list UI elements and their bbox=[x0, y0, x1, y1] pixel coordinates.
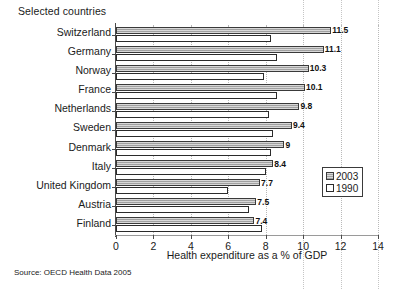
bar-row: Sweden9.4 bbox=[116, 120, 378, 139]
bar-value-label: 11.1 bbox=[325, 44, 341, 54]
legend-label: 2003 bbox=[336, 171, 358, 182]
bar-value-label: 7.5 bbox=[257, 197, 269, 207]
legend-item-2003: 2003 bbox=[326, 170, 358, 182]
category-label-switzerland: Switzerland bbox=[57, 26, 111, 38]
x-axis-tick-4 bbox=[191, 235, 192, 239]
category-label-italy: Italy bbox=[92, 160, 111, 172]
bar-2003-germany: 11.1 bbox=[116, 46, 324, 53]
bar-2003-norway: 10.3 bbox=[116, 65, 309, 72]
x-axis-tick-8 bbox=[266, 235, 267, 239]
gridline-extension-top-12 bbox=[341, 0, 342, 25]
bar-1990-italy bbox=[116, 168, 266, 175]
bar-1990-denmark bbox=[116, 149, 271, 156]
bar-1990-switzerland bbox=[116, 35, 271, 42]
bar-row: Denmark9 bbox=[116, 140, 378, 159]
bar-2003-austria: 7.5 bbox=[116, 198, 256, 205]
empty-white-square-icon bbox=[326, 184, 334, 192]
category-label-norway: Norway bbox=[75, 64, 111, 76]
x-axis-title: Health expenditure as a % of GDP bbox=[116, 249, 378, 261]
category-label-finland: Finland bbox=[77, 217, 111, 229]
bar-row: Austria7.5 bbox=[116, 197, 378, 216]
bar-value-label: 9 bbox=[285, 140, 290, 150]
category-label-austria: Austria bbox=[78, 198, 111, 210]
x-axis-tick-0 bbox=[116, 235, 117, 239]
bar-2003-finland: 7.4 bbox=[116, 217, 254, 224]
source-note: Source: OECD Health Data 2005 bbox=[14, 268, 131, 277]
bar-value-label: 7.7 bbox=[261, 178, 273, 188]
category-label-united-kingdom: United Kingdom bbox=[36, 179, 111, 191]
bar-row: Netherlands9.8 bbox=[116, 101, 378, 120]
plot-area: Switzerland11.5Germany11.1Norway10.3Fran… bbox=[116, 25, 378, 235]
x-axis-tick-12 bbox=[341, 235, 342, 239]
health-expenditure-bar-chart: Selected countries Switzerland11.5German… bbox=[0, 0, 399, 289]
bar-1990-sweden bbox=[116, 130, 273, 137]
bar-value-label: 10.3 bbox=[310, 63, 327, 73]
bar-2003-sweden: 9.4 bbox=[116, 122, 292, 129]
x-axis-tick-14 bbox=[378, 235, 379, 239]
chart-legend: 20031990 bbox=[322, 167, 363, 197]
category-label-sweden: Sweden bbox=[73, 121, 111, 133]
gridline-extension-top-14 bbox=[378, 0, 379, 25]
bar-1990-netherlands bbox=[116, 111, 269, 118]
bar-1990-norway bbox=[116, 73, 264, 80]
bar-1990-finland bbox=[116, 225, 262, 232]
category-label-netherlands: Netherlands bbox=[54, 102, 111, 114]
bar-2003-italy: 8.4 bbox=[116, 160, 273, 167]
legend-label: 1990 bbox=[336, 183, 358, 194]
bar-2003-denmark: 9 bbox=[116, 141, 284, 148]
category-label-germany: Germany bbox=[68, 45, 111, 57]
legend-item-1990: 1990 bbox=[326, 182, 358, 194]
bar-1990-austria bbox=[116, 206, 249, 213]
bar-value-label: 7.4 bbox=[255, 216, 267, 226]
chart-top-caption: Selected countries bbox=[18, 5, 106, 17]
bar-value-label: 10.1 bbox=[306, 82, 323, 92]
bar-value-label: 11.5 bbox=[332, 25, 348, 35]
bar-1990-france bbox=[116, 92, 277, 99]
x-axis-tick-10 bbox=[303, 235, 304, 239]
bar-rows: Switzerland11.5Germany11.1Norway10.3Fran… bbox=[116, 25, 378, 235]
bar-2003-united-kingdom: 7.7 bbox=[116, 179, 260, 186]
filled-gray-square-icon bbox=[326, 172, 334, 180]
bar-row: Switzerland11.5 bbox=[116, 25, 378, 44]
bar-1990-germany bbox=[116, 54, 277, 61]
bar-value-label: 9.4 bbox=[293, 120, 305, 130]
gridline-extension-top-10 bbox=[303, 0, 304, 25]
bar-value-label: 9.8 bbox=[300, 101, 312, 111]
bar-2003-france: 10.1 bbox=[116, 84, 305, 91]
category-label-denmark: Denmark bbox=[68, 141, 111, 153]
bar-row: Finland7.4 bbox=[116, 216, 378, 235]
x-axis-tick-6 bbox=[228, 235, 229, 239]
bar-1990-united-kingdom bbox=[116, 187, 228, 194]
bar-row: Germany11.1 bbox=[116, 44, 378, 63]
x-axis-tick-2 bbox=[153, 235, 154, 239]
gridline-14 bbox=[378, 25, 379, 235]
bar-row: Norway10.3 bbox=[116, 63, 378, 82]
category-label-france: France bbox=[78, 83, 111, 95]
bar-value-label: 8.4 bbox=[274, 159, 286, 169]
bar-row: France10.1 bbox=[116, 82, 378, 101]
bar-2003-switzerland: 11.5 bbox=[116, 27, 331, 34]
bar-2003-netherlands: 9.8 bbox=[116, 103, 299, 110]
